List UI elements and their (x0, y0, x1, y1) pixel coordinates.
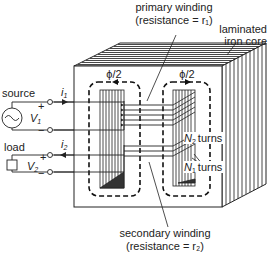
flux-right-label: ϕ/2 (179, 68, 194, 80)
primary-resistance-label: (resistance = r₁) (135, 14, 212, 26)
plus-source: + (38, 100, 44, 112)
load-resistor-icon (7, 160, 17, 170)
left-leg-winding (100, 90, 124, 188)
load-label: load (4, 141, 25, 153)
v2-label: V2 (27, 160, 38, 173)
transformer-diagram: primary winding (resistance = r₁) lamina… (0, 0, 269, 255)
primary-winding-label: primary winding (135, 1, 212, 13)
secondary-winding-label: secondary winding (119, 227, 210, 239)
i1-arrow-icon (62, 99, 68, 105)
minus-load: − (38, 167, 44, 179)
i2-arrow-icon (60, 152, 66, 158)
i1-label: i1 (61, 86, 67, 99)
minus-source: − (38, 124, 44, 136)
laminated-label: laminated (219, 23, 267, 35)
i2-label: i2 (61, 138, 67, 151)
n2-turns-label: N2turns (184, 132, 223, 145)
secondary-resistance-label: (resistance = r₂) (126, 240, 204, 252)
source-label: source (2, 87, 35, 99)
plus-load: + (40, 151, 46, 163)
flux-left-label: ϕ/2 (106, 68, 121, 80)
iron-core-label: iron core (224, 35, 267, 47)
n1-turns-label: N1turns (184, 161, 223, 174)
